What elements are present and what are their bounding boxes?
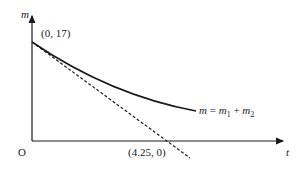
diagram-canvas bbox=[0, 0, 305, 170]
y-intercept-label: (0, 17) bbox=[41, 27, 70, 39]
mass-curve bbox=[32, 42, 196, 111]
origin-label: O bbox=[18, 146, 26, 158]
curve-label-lhs: m bbox=[199, 104, 207, 116]
y-axis-label: m bbox=[21, 8, 29, 20]
curve-label-eq: = bbox=[207, 104, 219, 116]
x-intercept-label: (4.25, 0) bbox=[128, 146, 166, 158]
curve-label-m1: m bbox=[219, 104, 227, 116]
curve-label-plus: + bbox=[231, 104, 243, 116]
curve-label-sub2: 2 bbox=[250, 110, 254, 119]
curve-label: m = m1 + m2 bbox=[199, 104, 254, 119]
x-axis-label: t bbox=[286, 146, 289, 158]
